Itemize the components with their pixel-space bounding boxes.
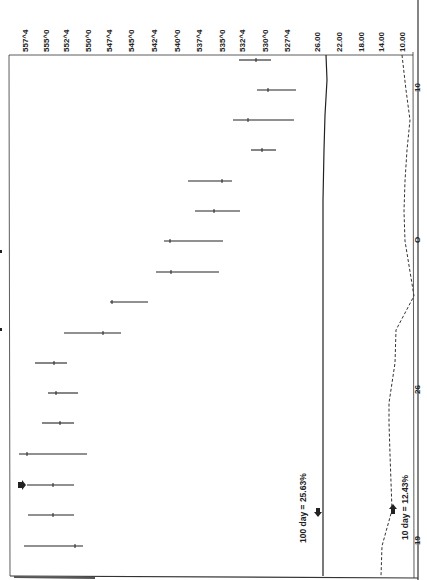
price-tick: 530^0 [261,29,270,52]
edge-mark [0,250,2,253]
price-tick: 547^4 [105,29,114,52]
annotation-10-day-text: 10 day = 12.43% [400,475,410,540]
volatility-100-day-line [323,55,327,576]
vol-tick: 14.00 [377,31,386,52]
price-tick: 550^0 [84,29,93,52]
date-tick: 19 [413,536,422,545]
arrow-down-icon [314,508,322,517]
annotation-100-day-text: 100 day = 25.63% [298,473,308,543]
price-range-bars [19,60,296,546]
price-tick: 537^4 [195,29,204,52]
open-close-ticks [27,58,268,548]
price-tick: 527^4 [283,29,292,52]
price-tick: 532^4 [238,29,247,52]
price-tick: 555^0 [42,29,51,52]
price-tick: 545^0 [127,29,136,52]
arrow-up-icon [389,504,397,514]
price-tick: 557^4 [21,29,30,52]
vol-tick: 10.00 [398,31,407,52]
volatility-axis: 26.00 22.00 18.00 14.00 10.00 [313,31,407,52]
price-tick: 540^0 [173,29,182,52]
price-axis: 557^4 555^0 552^4 550^0 547^4 545^0 542^… [21,29,292,52]
rotated-price-volatility-chart: 557^4 555^0 552^4 550^0 547^4 545^0 542^… [0,0,427,580]
vol-tick: 18.00 [357,31,366,52]
vol-tick: 22.00 [335,31,344,52]
edge-mark [0,328,2,331]
price-tick: 535^0 [218,29,227,52]
annotation-10-day: 10 day = 12.43% [389,475,410,540]
date-tick: O [413,237,422,243]
annotation-100-day: 100 day = 25.63% [298,473,322,543]
price-tick: 552^4 [62,29,71,52]
price-tick: 542^4 [150,29,159,52]
date-tick: 10 [413,83,422,92]
arrow-right-icon [18,480,26,490]
chart-frame [9,0,418,580]
vol-tick: 26.00 [313,31,322,52]
date-tick: 26 [413,385,422,394]
